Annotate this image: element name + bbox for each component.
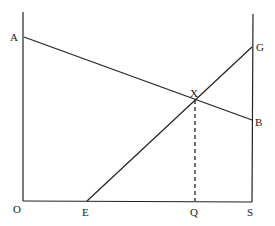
label-s: S [247, 206, 253, 218]
label-b: B [255, 116, 262, 128]
label-o: O [13, 203, 21, 215]
right-axis [252, 14, 253, 202]
label-g: G [256, 41, 264, 53]
label-x: X [190, 87, 198, 99]
label-a: A [10, 31, 18, 43]
label-e: E [82, 206, 89, 218]
bottom-axis [23, 201, 252, 202]
label-q: Q [190, 206, 198, 218]
diagram-canvas: A G X B O E Q S [0, 0, 275, 226]
line-eg [87, 47, 252, 201]
